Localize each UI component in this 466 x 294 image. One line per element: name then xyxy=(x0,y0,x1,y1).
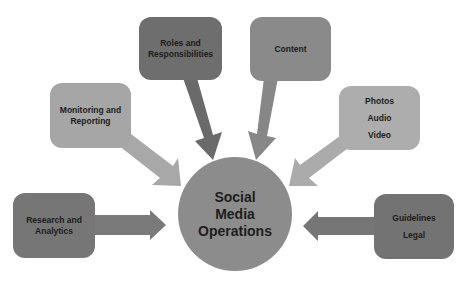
arrow-guidelines-to-center xyxy=(303,211,376,241)
center-label: Social xyxy=(214,189,255,206)
node-label: Photos xyxy=(365,96,394,107)
diagram-canvas: Roles and Responsibilities Content Monit… xyxy=(0,0,466,294)
node-label: Audio xyxy=(367,113,391,124)
node-label: Responsibilities xyxy=(148,49,213,60)
arrow-content-to-center xyxy=(248,78,278,160)
node-research-and-analytics: Research and Analytics xyxy=(13,193,95,258)
node-monitoring-and-reporting: Monitoring and Reporting xyxy=(50,83,131,148)
node-label: Analytics xyxy=(35,226,73,237)
center-label: Operations xyxy=(198,223,272,240)
node-label: Roles and xyxy=(160,38,201,49)
node-label: Guidelines xyxy=(392,213,435,224)
node-content: Content xyxy=(250,17,331,81)
node-label: Legal xyxy=(403,230,425,241)
center-label: Media xyxy=(215,206,255,223)
center-node-social-media-operations: Social Media Operations xyxy=(178,157,292,271)
node-label: Reporting xyxy=(70,116,110,127)
node-label: Monitoring and xyxy=(60,105,121,116)
node-photos-audio-video: Photos Audio Video xyxy=(339,86,420,150)
arrow-research-to-center xyxy=(93,210,166,240)
arrow-roles-to-center xyxy=(183,78,222,160)
node-roles-and-responsibilities: Roles and Responsibilities xyxy=(139,17,222,80)
node-guidelines-legal: Guidelines Legal xyxy=(374,194,454,259)
node-label: Content xyxy=(274,44,306,55)
node-label: Research and xyxy=(26,215,82,226)
node-label: Video xyxy=(368,130,391,141)
